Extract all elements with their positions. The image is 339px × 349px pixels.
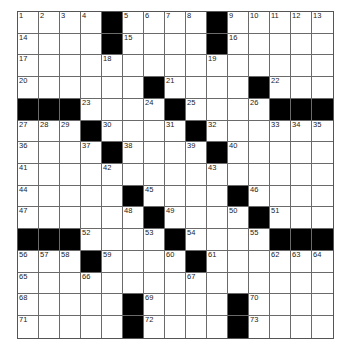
grid-cell[interactable]: 62 bbox=[270, 251, 291, 273]
grid-cell[interactable] bbox=[81, 207, 102, 229]
grid-cell[interactable]: 50 bbox=[228, 207, 249, 229]
grid-cell[interactable] bbox=[228, 55, 249, 77]
grid-cell[interactable] bbox=[144, 142, 165, 164]
grid-cell[interactable] bbox=[186, 207, 207, 229]
grid-cell[interactable] bbox=[165, 273, 186, 295]
grid-cell[interactable]: 34 bbox=[291, 121, 312, 143]
grid-cell[interactable]: 21 bbox=[165, 77, 186, 99]
grid-cell[interactable] bbox=[144, 34, 165, 56]
grid-cell[interactable] bbox=[228, 273, 249, 295]
grid-cell[interactable]: 47 bbox=[18, 207, 39, 229]
grid-cell[interactable]: 35 bbox=[312, 121, 333, 143]
grid-cell[interactable]: 38 bbox=[123, 142, 144, 164]
grid-cell[interactable] bbox=[39, 294, 60, 316]
grid-cell[interactable]: 8 bbox=[186, 12, 207, 34]
grid-cell[interactable] bbox=[270, 316, 291, 338]
grid-cell[interactable] bbox=[81, 316, 102, 338]
grid-cell[interactable]: 19 bbox=[207, 55, 228, 77]
grid-cell[interactable]: 4 bbox=[81, 12, 102, 34]
grid-cell[interactable] bbox=[249, 273, 270, 295]
grid-cell[interactable]: 3 bbox=[60, 12, 81, 34]
grid-cell[interactable] bbox=[291, 316, 312, 338]
grid-cell[interactable]: 39 bbox=[186, 142, 207, 164]
grid-cell[interactable] bbox=[291, 186, 312, 208]
grid-cell[interactable] bbox=[144, 273, 165, 295]
grid-cell[interactable] bbox=[207, 207, 228, 229]
grid-cell[interactable] bbox=[144, 55, 165, 77]
grid-cell[interactable] bbox=[102, 294, 123, 316]
grid-cell[interactable] bbox=[291, 294, 312, 316]
grid-cell[interactable]: 28 bbox=[39, 121, 60, 143]
grid-cell[interactable]: 55 bbox=[249, 229, 270, 251]
grid-cell[interactable] bbox=[165, 34, 186, 56]
grid-cell[interactable] bbox=[270, 294, 291, 316]
grid-cell[interactable] bbox=[123, 55, 144, 77]
grid-cell[interactable] bbox=[123, 121, 144, 143]
grid-cell[interactable]: 9 bbox=[228, 12, 249, 34]
grid-cell[interactable]: 52 bbox=[81, 229, 102, 251]
grid-cell[interactable] bbox=[81, 294, 102, 316]
grid-cell[interactable]: 18 bbox=[102, 55, 123, 77]
grid-cell[interactable] bbox=[312, 142, 333, 164]
grid-cell[interactable] bbox=[81, 34, 102, 56]
grid-cell[interactable] bbox=[186, 294, 207, 316]
grid-cell[interactable]: 48 bbox=[123, 207, 144, 229]
grid-cell[interactable] bbox=[270, 273, 291, 295]
grid-cell[interactable]: 33 bbox=[270, 121, 291, 143]
grid-cell[interactable] bbox=[165, 294, 186, 316]
grid-cell[interactable] bbox=[291, 142, 312, 164]
grid-cell[interactable]: 72 bbox=[144, 316, 165, 338]
grid-cell[interactable] bbox=[312, 294, 333, 316]
grid-cell[interactable]: 37 bbox=[81, 142, 102, 164]
grid-cell[interactable]: 59 bbox=[102, 251, 123, 273]
grid-cell[interactable]: 20 bbox=[18, 77, 39, 99]
grid-cell[interactable]: 22 bbox=[270, 77, 291, 99]
grid-cell[interactable] bbox=[60, 164, 81, 186]
grid-cell[interactable] bbox=[60, 77, 81, 99]
grid-cell[interactable] bbox=[207, 99, 228, 121]
grid-cell[interactable] bbox=[249, 164, 270, 186]
grid-cell[interactable] bbox=[102, 316, 123, 338]
grid-cell[interactable]: 17 bbox=[18, 55, 39, 77]
grid-cell[interactable] bbox=[144, 164, 165, 186]
grid-cell[interactable]: 65 bbox=[18, 273, 39, 295]
grid-cell[interactable] bbox=[312, 186, 333, 208]
grid-cell[interactable] bbox=[60, 34, 81, 56]
grid-cell[interactable]: 70 bbox=[249, 294, 270, 316]
grid-cell[interactable]: 49 bbox=[165, 207, 186, 229]
grid-cell[interactable]: 13 bbox=[312, 12, 333, 34]
grid-cell[interactable] bbox=[291, 273, 312, 295]
grid-cell[interactable] bbox=[249, 251, 270, 273]
grid-cell[interactable] bbox=[249, 121, 270, 143]
grid-cell[interactable]: 56 bbox=[18, 251, 39, 273]
grid-cell[interactable]: 11 bbox=[270, 12, 291, 34]
grid-cell[interactable] bbox=[291, 77, 312, 99]
grid-cell[interactable] bbox=[39, 55, 60, 77]
grid-cell[interactable] bbox=[312, 55, 333, 77]
grid-cell[interactable] bbox=[207, 229, 228, 251]
grid-cell[interactable]: 5 bbox=[123, 12, 144, 34]
grid-cell[interactable]: 58 bbox=[60, 251, 81, 273]
grid-cell[interactable] bbox=[39, 164, 60, 186]
grid-cell[interactable]: 1 bbox=[18, 12, 39, 34]
grid-cell[interactable] bbox=[207, 186, 228, 208]
grid-cell[interactable] bbox=[186, 164, 207, 186]
grid-cell[interactable] bbox=[291, 207, 312, 229]
grid-cell[interactable]: 42 bbox=[102, 164, 123, 186]
grid-cell[interactable] bbox=[102, 273, 123, 295]
grid-cell[interactable] bbox=[123, 251, 144, 273]
grid-cell[interactable] bbox=[39, 186, 60, 208]
grid-cell[interactable] bbox=[207, 273, 228, 295]
grid-cell[interactable]: 41 bbox=[18, 164, 39, 186]
grid-cell[interactable]: 53 bbox=[144, 229, 165, 251]
grid-cell[interactable] bbox=[186, 316, 207, 338]
grid-cell[interactable] bbox=[39, 77, 60, 99]
grid-cell[interactable] bbox=[312, 164, 333, 186]
grid-cell[interactable] bbox=[270, 34, 291, 56]
grid-cell[interactable] bbox=[270, 55, 291, 77]
grid-cell[interactable]: 24 bbox=[144, 99, 165, 121]
grid-cell[interactable] bbox=[144, 251, 165, 273]
grid-cell[interactable]: 45 bbox=[144, 186, 165, 208]
grid-cell[interactable] bbox=[39, 207, 60, 229]
grid-cell[interactable] bbox=[60, 207, 81, 229]
